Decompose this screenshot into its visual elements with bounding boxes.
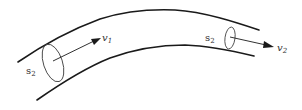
right-velocity-label: v2 [277,42,288,55]
arrowhead-icon [91,38,101,45]
left-cross-section [38,42,68,85]
left-area-label: s2 [26,65,36,78]
right-area-label: s2 [205,32,215,45]
velocity-arrow-1 [53,41,94,61]
left-velocity-label: v1 [102,32,112,45]
velocity-arrow-2 [230,37,266,45]
pipe-upper-wall [18,10,259,62]
arrowhead-icon [263,41,274,48]
pipe-flow-diagram: s2 v1 s2 v2 [0,0,302,110]
